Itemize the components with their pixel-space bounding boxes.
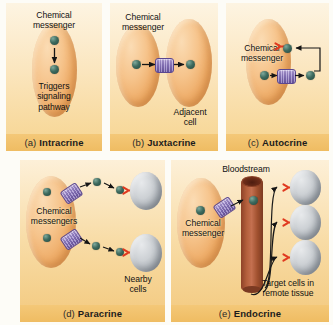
messenger-dot-target [186, 60, 195, 69]
panel-c-caption: (c) Autocrine [226, 134, 329, 151]
panel-d-name: Paracrine [78, 308, 122, 319]
panel-d-caption: (d) Paracrine [20, 305, 165, 322]
panel-b-caption: (b) Juxtacrine [110, 134, 218, 151]
panel-juxtacrine: Chemical messenger Adjacent cell (b) Jux… [110, 3, 218, 151]
panel-e-caption: (e) Endocrine [171, 305, 329, 322]
panel-a-name: Intracrine [39, 137, 83, 148]
panel-a-caption: (a) Intracrine [6, 134, 102, 151]
panel-c-letter: (c) [248, 137, 259, 148]
panel-c-arrows [226, 3, 329, 151]
panel-b-letter: (b) [132, 137, 144, 148]
panel-b-adjacent-label: Adjacent cell [162, 107, 218, 128]
panel-a-effect-label: Triggers signaling pathway [14, 81, 94, 112]
panel-a-arrows [6, 3, 102, 151]
signaling-modes-figure: Chemical messenger Triggers signaling pa… [0, 0, 333, 325]
panel-autocrine: Chemical messenger (c) Autocrine [226, 3, 329, 151]
membrane-channel [155, 58, 174, 73]
panel-paracrine: Chemical messengers Nearby cells (d) Par… [20, 160, 165, 322]
messenger-dot-internal [50, 65, 59, 74]
panel-d-arrows [20, 160, 165, 322]
panel-b-arrows [110, 3, 218, 151]
panel-intracrine: Chemical messenger Triggers signaling pa… [6, 3, 102, 151]
panel-e-letter: (e) [219, 308, 231, 319]
panel-a-letter: (a) [24, 137, 36, 148]
panel-endocrine: Bloodstream Chemical messenger Target ce… [171, 160, 329, 322]
panel-d-letter: (d) [63, 308, 75, 319]
panel-b-name: Juxtacrine [147, 137, 196, 148]
panel-d-nearby-label: Nearby cells [112, 274, 164, 295]
panel-e-target-label: Target cells in remote tissue [247, 278, 329, 299]
panel-c-name: Autocrine [262, 137, 307, 148]
panel-e-name: Endocrine [234, 308, 281, 319]
